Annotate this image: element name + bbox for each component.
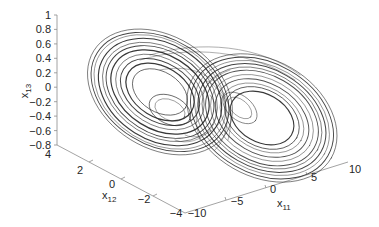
right-lobe: [164, 28, 361, 208]
x11-tick-label: 0: [270, 183, 276, 195]
x12-tick-labels: 4 2 0 −2 −4: [45, 148, 182, 219]
x12-ticks: [89, 160, 157, 196]
right-lobe-inner: [217, 86, 263, 130]
x13-ticks: [54, 15, 57, 145]
x13-tick-label: −0.2: [29, 96, 51, 108]
x13-tick-label: 0.4: [36, 52, 51, 64]
x11-axis-line: [185, 162, 348, 213]
left-lobe: [64, 3, 256, 181]
x13-tick-label: −0.6: [29, 125, 51, 137]
x11-axis-label: x11: [277, 197, 291, 212]
x13-tick-labels: 1 0.8 0.6 0.4 0.2 0 −0.2 −0.4 −0.6 −0.8: [29, 9, 51, 151]
x13-tick-label: 0: [45, 81, 51, 93]
x11-tick-label: −10: [188, 207, 207, 219]
x12-tick-label: 0: [109, 178, 115, 190]
x12-tick-label: 2: [77, 164, 83, 176]
x13-tick-label: 0.6: [36, 38, 51, 50]
attractor-3d-plot: 1 0.8 0.6 0.4 0.2 0 −0.2 −0.4 −0.6 −0.8 …: [0, 0, 379, 227]
x12-tick-label: −2: [138, 193, 151, 205]
x12-tick-label: 4: [45, 148, 51, 160]
x11-tick-label: 5: [311, 171, 317, 183]
x11-tick-label: −5: [231, 195, 244, 207]
x13-tick-label: −0.4: [29, 110, 51, 122]
x13-tick-label: 1: [45, 9, 51, 21]
x12-tick-label: −4: [170, 207, 183, 219]
x11-tick-labels: −10 −5 0 5 10: [188, 163, 361, 219]
x13-tick-label: 0.8: [36, 23, 51, 35]
x13-tick-label: 0.2: [36, 67, 51, 79]
x12-axis-label: x12: [102, 189, 117, 204]
x11-tick-label: 10: [349, 163, 361, 175]
